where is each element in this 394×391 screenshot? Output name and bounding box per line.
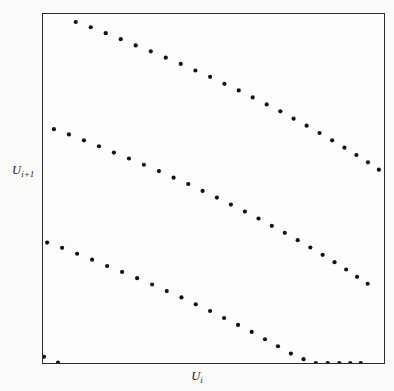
data-point [289,351,293,355]
data-point [75,252,79,256]
data-point [222,316,226,320]
data-point [270,224,274,228]
data-point [348,361,352,363]
data-point [278,109,282,113]
data-point [283,231,287,235]
data-point [215,195,219,199]
data-point [120,270,124,274]
data-point [105,264,109,268]
scatter-series-branch-3-lower [45,241,363,363]
x-axis-label-subscript: i [200,375,203,385]
y-axis-label-base: U [12,163,21,177]
data-point [296,238,300,242]
scatter-series-branch-1-upper [74,20,381,172]
data-point [301,357,305,361]
data-point [342,146,346,150]
data-point [308,245,312,249]
data-point [321,253,325,257]
data-point [366,160,370,164]
data-point [134,43,138,47]
data-point [236,323,240,327]
data-point [276,344,280,348]
data-point [104,31,108,35]
data-point [314,361,318,363]
data-point [326,361,330,363]
data-point [119,37,123,41]
data-point [149,49,153,53]
data-point [292,117,296,121]
data-point [135,276,139,280]
data-point [377,168,381,172]
data-point [89,25,93,29]
data-point [165,289,169,293]
data-point [337,361,341,363]
data-point [344,267,348,271]
data-point [112,150,116,154]
data-point [355,275,359,279]
data-point [43,355,46,359]
data-point [208,309,212,313]
data-point [332,260,336,264]
data-point [90,258,94,262]
data-point [150,282,154,286]
data-point [317,131,321,135]
data-point [179,295,183,299]
data-point [179,62,183,66]
scatter-series-corner-points [43,355,60,363]
x-axis-label: Ui [0,369,394,385]
data-point [237,88,241,92]
data-point [82,138,86,142]
data-point [164,56,168,60]
data-point [243,209,247,213]
data-point [200,189,204,193]
data-point [52,127,56,131]
data-point [194,302,198,306]
data-point [263,337,267,341]
data-point [193,68,197,72]
data-point [127,156,131,160]
data-point [142,163,146,167]
data-point [45,241,49,245]
data-point [208,75,212,79]
data-point [56,361,60,363]
data-point [366,282,370,286]
data-point [74,20,78,24]
y-axis-label-subscript: i+1 [21,169,34,179]
y-axis-label: Ui+1 [12,163,34,179]
data-point [251,95,255,99]
data-point [186,182,190,186]
data-point [330,138,334,142]
data-point [305,124,309,128]
data-point [256,216,260,220]
x-axis-label-base: U [191,369,200,383]
data-point [222,82,226,86]
scatter-series-branch-2-middle [52,127,370,286]
data-point [97,144,101,148]
data-point [67,132,71,136]
data-point [265,102,269,106]
data-point [172,176,176,180]
scatter-plot-canvas [43,14,384,363]
data-point [359,361,363,363]
plot-frame [42,13,385,364]
data-point [157,169,161,173]
data-point [229,202,233,206]
data-point [250,330,254,334]
data-point [354,153,358,157]
data-point [60,246,64,250]
figure-root: Ui+1 Ui [0,0,394,391]
